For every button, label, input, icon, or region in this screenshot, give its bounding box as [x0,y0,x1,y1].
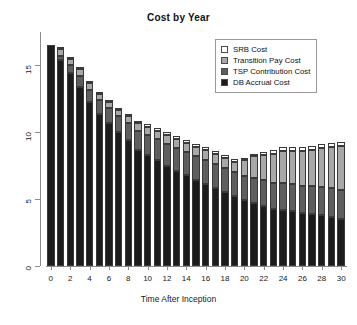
legend-item: TSP Contribution Cost [221,66,310,77]
legend-item: SRB Cost [221,44,310,55]
legend-swatch-icon [221,79,228,86]
x-axis-tick [51,266,52,270]
bar-stack [173,32,180,266]
bar-segment [231,172,238,196]
bar-stack [163,32,170,266]
bar-segment [260,152,267,155]
bar-segment [86,83,93,90]
bar-stack [76,32,83,266]
bar-stack [144,32,151,266]
bar-segment [299,213,306,266]
bar-segment [250,156,257,177]
legend-item-label: DB Accrual Cost [233,77,290,88]
x-axis-tick [283,266,284,270]
bar-segment [289,211,296,266]
bar-segment [318,144,325,148]
bar-segment [134,150,141,266]
bar-segment [57,56,64,60]
x-axis-tick [206,266,207,270]
bar-segment [308,186,315,214]
bar-segment [154,139,161,160]
chart-title: Cost by Year [0,12,357,23]
bar-segment [328,143,335,147]
bar-segment [231,196,238,266]
bar-stack [125,32,132,266]
bar-segment [289,184,296,211]
legend-swatch-icon [221,57,228,64]
bar-segment [144,135,151,155]
bar-segment [270,183,277,208]
bar-segment [192,156,199,180]
bar-segment [105,108,112,123]
bar-segment [231,159,238,162]
bar-segment [183,175,190,266]
bar-segment [144,127,151,135]
bar-segment [260,155,267,180]
bar-segment [221,158,228,169]
bar-stack [86,32,93,266]
x-axis-tick [244,266,245,270]
bar-segment [318,148,325,187]
bar-stack [318,32,325,266]
bar-segment [289,147,296,151]
bar-segment [289,151,296,184]
bar-segment [96,94,103,101]
bar-segment [125,123,132,140]
bar-segment [57,47,64,49]
bar-segment [105,100,112,102]
x-axis-tick [186,266,187,270]
bar-stack [192,32,199,266]
bar-segment [67,65,74,73]
bar-segment [192,180,199,266]
legend-swatch-icon [221,46,228,53]
bar-segment [86,90,93,102]
bar-segment [318,215,325,266]
bar-stack [96,32,103,266]
bar-segment [250,154,257,157]
bar-segment [260,206,267,266]
bar-segment [221,155,228,158]
y-axis-tick-label: 15 [0,60,33,70]
y-axis-tick [35,65,40,66]
bar-segment [212,188,219,266]
bar-segment [299,151,306,186]
bar-stack [57,32,64,266]
bar-segment [270,154,277,183]
bar-stack [154,32,161,266]
x-axis-tick [70,266,71,270]
bar-segment [173,136,180,139]
bar-segment [202,184,209,266]
bar-segment [96,114,103,266]
bar-segment [47,45,54,266]
bar-segment [86,81,93,83]
bar-segment [183,152,190,175]
bar-segment [241,160,248,176]
x-axis-tick [90,266,91,270]
bar-stack [183,32,190,266]
bar-segment [134,131,141,150]
x-axis-tick [264,266,265,270]
bar-segment [308,214,315,266]
bar-segment [318,187,325,215]
x-axis-tick [167,266,168,270]
bar-segment [270,150,277,154]
bar-stack [328,32,335,266]
bar-segment [76,69,83,76]
bar-stack [105,32,112,266]
bar-segment [173,148,180,171]
bar-segment [202,160,209,184]
y-axis-tick-label: 5 [0,194,33,204]
bar-segment [337,146,344,190]
bar-segment [241,158,248,161]
legend-item-label: TSP Contribution Cost [233,66,310,77]
bar-segment [337,142,344,146]
x-axis-tick [128,266,129,270]
bar-segment [76,87,83,266]
bar-segment [299,147,306,151]
y-axis-tick [35,266,40,267]
bar-segment [76,76,83,87]
bar-segment [337,190,344,219]
bar-stack [67,32,74,266]
bar-segment [250,203,257,266]
bar-segment [250,178,257,203]
